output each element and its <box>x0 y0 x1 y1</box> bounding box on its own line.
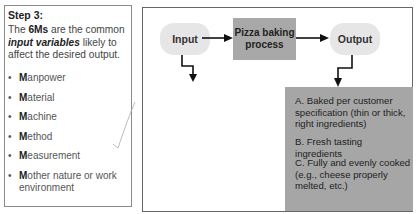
pointer-mark-icon <box>113 102 135 148</box>
arrow-down-icon <box>182 55 197 82</box>
arrow-down-icon <box>334 55 352 87</box>
arrow-right-icon <box>296 34 329 42</box>
arrow-right-icon <box>202 34 233 42</box>
connector-lines <box>0 0 416 214</box>
